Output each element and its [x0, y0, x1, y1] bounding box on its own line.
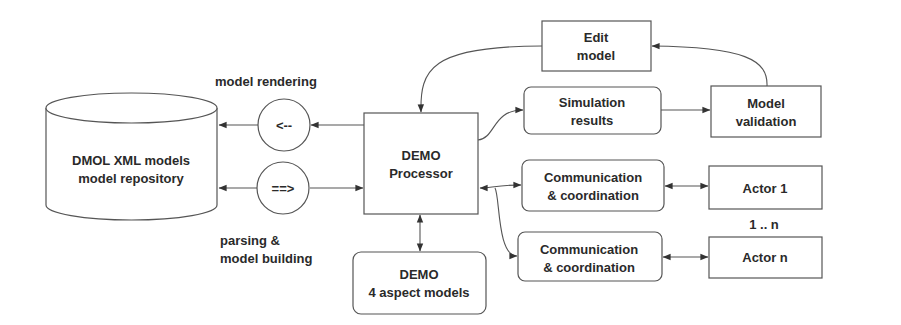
render-operation: <--	[258, 99, 310, 151]
repository-cylinder: DMOL XML models model repository	[46, 93, 217, 220]
comm2-label-line2: & coordination	[543, 260, 635, 275]
parsing-annotation-line1: parsing &	[220, 233, 280, 248]
repository-label-line2: model repository	[78, 171, 184, 186]
comm1-label-line1: Communication	[544, 170, 642, 185]
processor-label-line1: DEMO	[402, 148, 441, 163]
edit-model-label-line1: Edit	[584, 30, 609, 45]
demo-processor-box: DEMO Processor	[364, 113, 478, 214]
communication-box-2: Communication & coordination	[518, 232, 662, 281]
multiplicity-annotation: 1 .. n	[749, 217, 779, 232]
edge-validation-to-edit	[652, 46, 767, 86]
parse-operation-label: ==>	[272, 181, 295, 196]
model-validation-box: Model validation	[711, 86, 821, 137]
aspect-models-box: DEMO 4 aspect models	[353, 252, 486, 314]
parse-operation: ==>	[257, 162, 309, 214]
actor-n-label: Actor n	[742, 250, 788, 265]
communication-box-1: Communication & coordination	[522, 160, 664, 211]
edit-model-box: Edit model	[542, 21, 651, 71]
edge-processor-to-comm2	[495, 188, 517, 256]
architecture-diagram: DMOL XML models model repository <-- ==>…	[0, 0, 901, 325]
processor-label-line2: Processor	[389, 166, 453, 181]
repository-label-line1: DMOL XML models	[72, 153, 190, 168]
edit-model-label-line2: model	[577, 48, 615, 63]
simulation-results-box: Simulation results	[524, 87, 661, 134]
render-operation-label: <--	[276, 118, 292, 133]
actor-1-box: Actor 1	[709, 166, 822, 209]
actor-n-box: Actor n	[709, 237, 822, 278]
validation-label-line1: Model	[747, 96, 785, 111]
aspect-models-label-line1: DEMO	[400, 267, 439, 282]
comm1-label-line2: & coordination	[547, 188, 639, 203]
simulation-label-line2: results	[571, 113, 614, 128]
aspect-models-label-line2: 4 aspect models	[368, 285, 469, 300]
simulation-label-line1: Simulation	[559, 95, 626, 110]
actor-1-label: Actor 1	[743, 181, 788, 196]
validation-label-line2: validation	[736, 114, 797, 129]
comm2-label-line1: Communication	[540, 242, 638, 257]
parsing-annotation-line2: model building	[220, 251, 312, 266]
edge-processor-to-simulation	[478, 110, 523, 140]
model-rendering-annotation: model rendering	[215, 74, 317, 89]
edge-processor-comm1	[480, 185, 521, 188]
